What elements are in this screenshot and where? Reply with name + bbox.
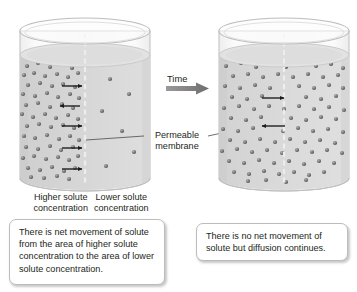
concentration-labels: Higher solute concentration Lower solute… — [16, 192, 166, 215]
caption-right-text: There is no net movement of solute but d… — [206, 230, 339, 254]
caption-right-beaker: There is no net movement of solute but d… — [196, 223, 348, 261]
permeable-membrane-label: Permeable membrane — [146, 130, 208, 153]
higher-concentration-label: Higher solute concentration — [33, 192, 88, 215]
lower-concentration-label: Lower solute concentration — [94, 192, 149, 215]
permeable-membrane-label-line1: Permeable — [146, 130, 208, 141]
time-arrow-label: Time — [167, 74, 187, 85]
caption-left-beaker: There is net movement of solute from the… — [9, 219, 165, 285]
permeable-membrane-label-line2: membrane — [146, 141, 208, 152]
diffusion-diagram: Time Permeable membrane Higher solute co… — [0, 0, 357, 292]
beaker-right-group — [219, 18, 349, 191]
caption-left-text: There is net movement of solute from the… — [19, 226, 156, 275]
beaker-left-group — [20, 18, 150, 191]
